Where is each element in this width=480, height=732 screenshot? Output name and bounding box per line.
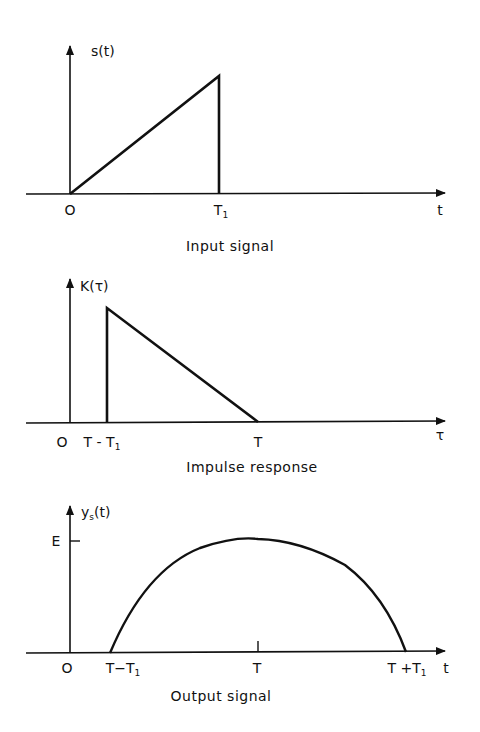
output-y-label: ys(t) bbox=[81, 505, 110, 522]
impulse-t-minus-t1-sub: 1 bbox=[115, 442, 121, 452]
impulse-t-minus-t1-label: T - T1 bbox=[84, 435, 121, 452]
output-signal-plot bbox=[26, 506, 445, 653]
figure-canvas bbox=[0, 0, 480, 732]
impulse-origin-label: O bbox=[56, 435, 67, 449]
input-caption: Input signal bbox=[186, 239, 274, 253]
output-e-label: E bbox=[52, 534, 61, 548]
output-t-minus-t1-main: T−T bbox=[106, 660, 135, 676]
input-t1-label: T1 bbox=[214, 203, 228, 220]
impulse-y-label: K(τ) bbox=[80, 279, 109, 293]
input-signal-curve bbox=[70, 76, 219, 194]
input-x-axis bbox=[26, 193, 445, 194]
impulse-x-label: τ bbox=[436, 428, 444, 442]
output-x-axis bbox=[26, 651, 445, 653]
output-y-suffix: (t) bbox=[94, 504, 110, 520]
output-x-label: t bbox=[443, 661, 449, 675]
output-caption: Output signal bbox=[171, 689, 272, 703]
input-t1-main: T bbox=[214, 202, 223, 218]
input-x-label: t bbox=[437, 203, 443, 217]
output-t-plus-t1-sub: 1 bbox=[421, 668, 427, 678]
input-t1-sub: 1 bbox=[222, 210, 228, 220]
impulse-x-axis bbox=[26, 421, 445, 423]
impulse-response-curve bbox=[107, 308, 258, 423]
input-origin-label: O bbox=[64, 203, 75, 217]
impulse-t-label: T bbox=[254, 435, 263, 449]
output-t-minus-t1-label: T−T1 bbox=[106, 661, 141, 678]
input-signal-plot bbox=[26, 46, 445, 194]
output-signal-curve bbox=[110, 538, 406, 653]
output-t-plus-t1-main: T +T bbox=[387, 660, 420, 676]
output-origin-label: O bbox=[61, 661, 72, 675]
output-t-label: T bbox=[253, 661, 262, 675]
impulse-t-minus-t1-main: T - T bbox=[84, 434, 115, 450]
impulse-caption: Impulse response bbox=[186, 460, 317, 474]
impulse-response-plot bbox=[26, 279, 445, 423]
output-t-plus-t1-label: T +T1 bbox=[387, 661, 426, 678]
input-y-label: s(t) bbox=[91, 44, 115, 58]
output-t-minus-t1-sub: 1 bbox=[135, 668, 141, 678]
